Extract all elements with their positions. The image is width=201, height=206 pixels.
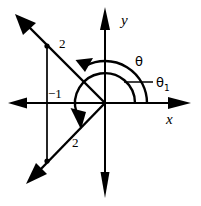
vector-upper-left-tick — [44, 43, 49, 48]
label-two-lower: 2 — [72, 136, 79, 149]
arc-theta-arrowhead-icon — [76, 58, 94, 72]
angle-diagram-figure: y x 2 2 −1 θ θ1 — [0, 0, 201, 206]
label-theta-one: θ1 — [156, 76, 170, 93]
x-axis-arrow-right-icon — [168, 97, 191, 109]
label-two-upper: 2 — [59, 37, 66, 50]
label-minus-one: −1 — [48, 87, 62, 100]
y-axis-arrow-down-icon — [101, 172, 110, 198]
label-theta-one-subscript: 1 — [164, 83, 170, 93]
label-theta-one-base: θ — [156, 75, 164, 90]
x-axis-arrow-left-icon — [8, 98, 27, 109]
label-theta: θ — [135, 55, 143, 68]
vector-lower-left-tick — [44, 158, 49, 163]
diagram-canvas — [0, 0, 201, 206]
y-axis-arrow-up-icon — [100, 7, 110, 30]
y-axis-label: y — [121, 13, 128, 28]
x-axis-label: x — [166, 112, 173, 127]
vector-upper-left-shaft — [27, 25, 105, 103]
vector-lower-left — [26, 103, 105, 184]
